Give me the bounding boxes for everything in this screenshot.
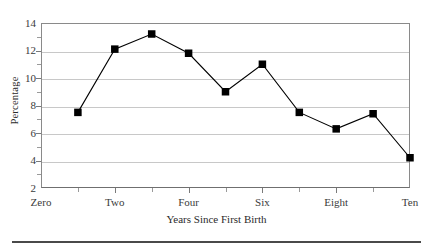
y-axis-tick bbox=[36, 106, 41, 107]
gridline bbox=[42, 107, 409, 108]
y-axis-title: Percentage bbox=[9, 61, 20, 141]
footer-divider bbox=[12, 241, 421, 243]
y-axis-tick-label: 12 bbox=[25, 45, 36, 56]
gridline bbox=[42, 134, 409, 135]
x-axis-tick-label: Two bbox=[105, 196, 124, 208]
chart-figure: 2468101214 Percentage ZeroTwoFourSixEigh… bbox=[0, 0, 433, 249]
y-axis-tick bbox=[36, 78, 41, 79]
y-axis-minor-tick bbox=[37, 119, 41, 120]
x-axis-tick bbox=[262, 188, 263, 193]
y-axis-minor-tick bbox=[37, 92, 41, 93]
x-axis-minor-tick bbox=[299, 188, 300, 192]
y-axis-tick bbox=[36, 161, 41, 162]
y-axis-minor-tick bbox=[37, 147, 41, 148]
y-axis-tick bbox=[36, 51, 41, 52]
gridline bbox=[42, 52, 409, 53]
plot-area bbox=[41, 23, 410, 188]
x-axis-tick-label: Ten bbox=[402, 196, 418, 208]
y-axis-tick-label: 10 bbox=[25, 73, 36, 84]
y-axis-minor-tick bbox=[37, 37, 41, 38]
x-axis-minor-tick bbox=[152, 188, 153, 192]
gridline bbox=[42, 162, 409, 163]
x-axis-minor-tick bbox=[373, 188, 374, 192]
x-axis-tick bbox=[189, 188, 190, 193]
x-axis-title: Years Since First Birth bbox=[0, 213, 433, 225]
x-axis-tick bbox=[115, 188, 116, 193]
y-axis-tick bbox=[36, 133, 41, 134]
y-axis-tick-label: 2 bbox=[31, 183, 37, 194]
x-axis-minor-tick bbox=[78, 188, 79, 192]
x-axis-tick-label: Four bbox=[178, 196, 199, 208]
x-axis-tick bbox=[336, 188, 337, 193]
x-axis-tick-label: Zero bbox=[31, 196, 52, 208]
y-axis-tick-label: 14 bbox=[25, 18, 36, 29]
gridline bbox=[42, 79, 409, 80]
y-axis-minor-tick bbox=[37, 174, 41, 175]
x-axis-tick-label: Six bbox=[255, 196, 270, 208]
x-axis-minor-tick bbox=[226, 188, 227, 192]
x-axis-tick-label: Eight bbox=[324, 196, 348, 208]
y-axis-minor-tick bbox=[37, 64, 41, 65]
